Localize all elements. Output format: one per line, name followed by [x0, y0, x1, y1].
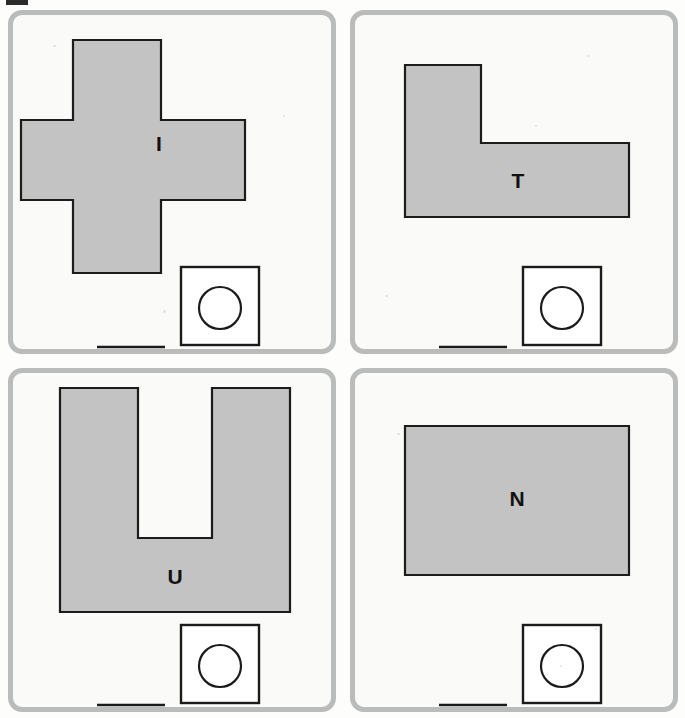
panel-content-a: I [13, 15, 331, 349]
shape-label-a: I [156, 132, 162, 155]
shape-label-d: N [509, 487, 524, 510]
panel-a-drawing: I [13, 15, 331, 349]
panel-bottom-left[interactable]: U [8, 368, 336, 712]
panel-top-left[interactable]: I [8, 10, 336, 354]
panel-bottom-right[interactable]: N [350, 368, 678, 712]
legend-circle-icon-d [541, 645, 583, 687]
panel-b-drawing: T [355, 15, 673, 349]
legend-circle-icon-b [541, 287, 583, 329]
panel-content-d: N [355, 373, 673, 707]
shape-l-shape[interactable] [405, 65, 629, 217]
legend-circle-icon-a [199, 287, 241, 329]
shape-label-b: T [512, 169, 525, 192]
panel-content-c: U [13, 373, 331, 707]
panel-d-drawing: N [355, 373, 673, 707]
legend-circle-icon-c [199, 645, 241, 687]
panel-c-drawing: U [13, 373, 331, 707]
figure-panel-grid: I T [0, 0, 685, 718]
panel-top-right[interactable]: T [350, 10, 678, 354]
panel-content-b: T [355, 15, 673, 349]
shape-cross[interactable] [21, 40, 245, 273]
shape-label-c: U [167, 565, 182, 588]
